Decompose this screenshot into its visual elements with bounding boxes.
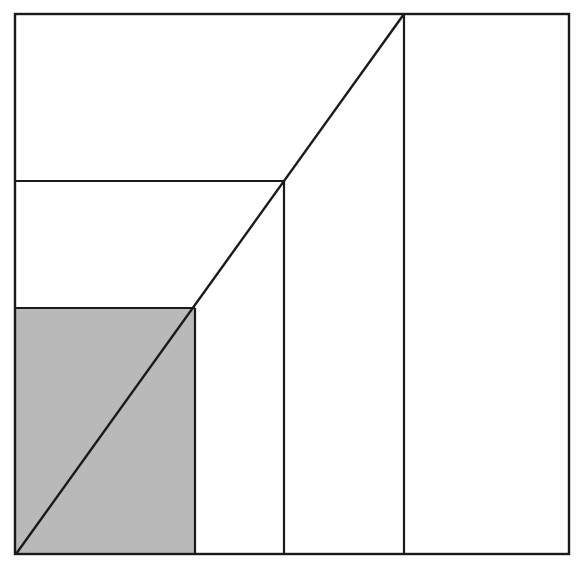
diagonal-line: [16, 14, 404, 554]
nested-rectangles-diagram: [0, 0, 582, 572]
